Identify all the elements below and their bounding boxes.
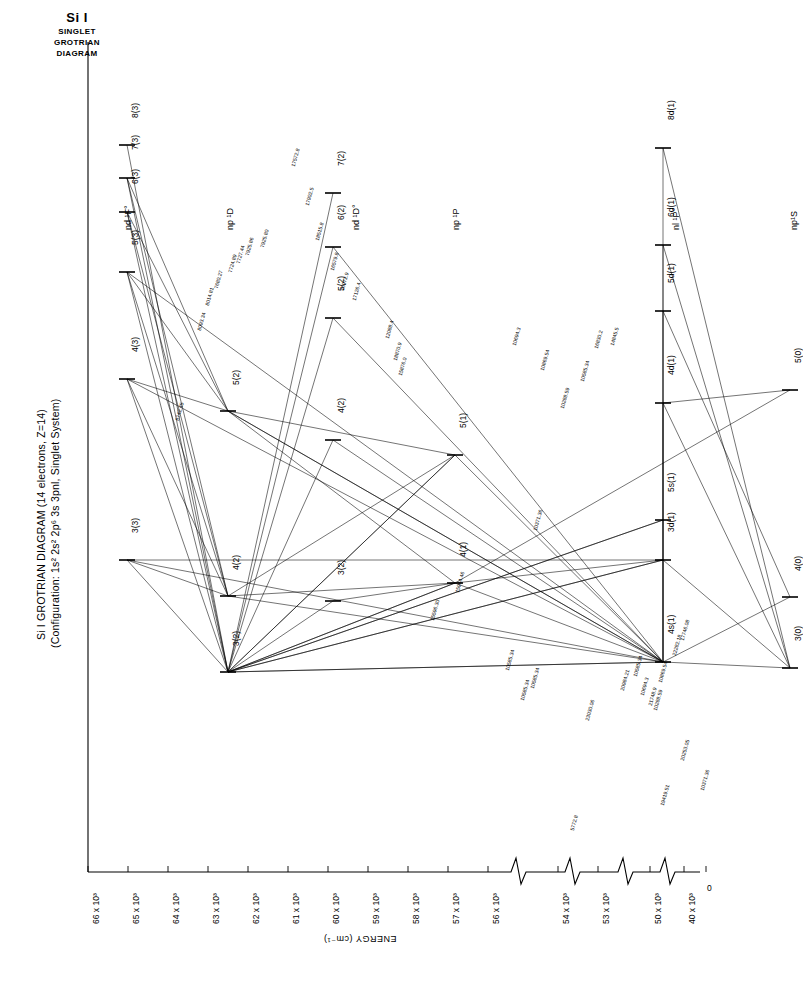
axis-tick-label: 65 x 10³ (132, 893, 141, 924)
level-label: 3(2) (232, 631, 241, 646)
axis-tick-label: 64 x 10³ (172, 893, 181, 924)
axis-tick-label: 61 x 10³ (292, 893, 301, 924)
level-label: 5s(1) (667, 473, 676, 492)
level-label: 7(3) (131, 135, 140, 150)
level-label: 7(2) (337, 151, 346, 166)
level-label: 4(1) (459, 542, 468, 557)
axis-tick-label: 60 x 10³ (332, 893, 341, 924)
axis-tick-label: 53 x 10³ (602, 893, 611, 924)
level-label: 5(0) (794, 348, 803, 363)
column-header-np1D: np ¹D (226, 208, 235, 230)
axis-tick-label: 62 x 10³ (252, 893, 261, 924)
level-label: 3(3) (131, 518, 140, 533)
axis-tick-label: 57 x 10³ (452, 893, 461, 924)
level-label: 8(3) (131, 103, 140, 118)
level-label: 6(3) (131, 169, 140, 184)
level-label: 5(1) (459, 413, 468, 428)
axis-tick-label: 66 x 10³ (92, 893, 101, 924)
axis-tick-label: 56 x 10³ (492, 893, 501, 924)
level-label: 6d(1) (667, 197, 676, 217)
axis-tick-label: 40 x 10³ (688, 893, 697, 924)
axis-tick-label: 54 x 10³ (562, 893, 571, 924)
level-label: 6(2) (337, 205, 346, 220)
level-label: 4d(1) (667, 355, 676, 375)
axis-tick-label: 50 x 10³ (654, 893, 663, 924)
column-header-np1P: np ¹P (452, 208, 461, 230)
level-label: 5(3) (131, 230, 140, 245)
level-label: 4s(1) (667, 615, 676, 634)
level-label: 4(2) (232, 555, 241, 570)
column-header-np1S: np¹S (790, 211, 799, 230)
level-label: 8d(1) (667, 100, 676, 120)
level-label: 4(2) (337, 398, 346, 413)
level-label: 3(0) (794, 626, 803, 641)
level-label: 5d(1) (667, 263, 676, 283)
column-header-nd1Fo: nd ¹F° (124, 205, 133, 230)
column-header-nd1Do: nd ¹D° (352, 204, 361, 230)
level-label: 3d(1) (667, 512, 676, 532)
level-label: 4(0) (794, 556, 803, 571)
axis-tick-label: 63 x 10³ (212, 893, 221, 924)
axis-tick-label: 59 x 10³ (372, 893, 381, 924)
axis-tick-label: 0 (707, 884, 712, 893)
axis-tick-label: 58 x 10³ (412, 893, 421, 924)
level-label: 4(3) (131, 337, 140, 352)
level-label: 5(2) (232, 370, 241, 385)
level-label: 3(2) (337, 560, 346, 575)
